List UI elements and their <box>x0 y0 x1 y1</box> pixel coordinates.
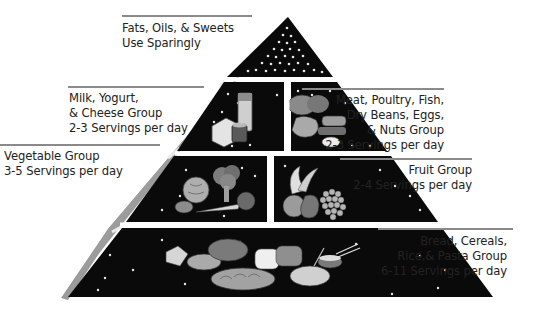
label-fruit: Fruit Group 2-4 Servings per day <box>353 163 472 193</box>
rule-fruit <box>340 158 472 160</box>
rule-milk <box>68 86 204 88</box>
label-meat: Meat, Poultry, Fish, Dry Beans, Eggs, & … <box>325 93 444 153</box>
rule-vegetable <box>0 144 160 146</box>
tier-fats <box>227 17 333 77</box>
label-milk: Milk, Yogurt, & Cheese Group 2-3 Serving… <box>69 91 188 136</box>
label-fats-line-1: Fats, Oils, & Sweets <box>122 21 234 36</box>
label-bread: Bread, Cereals, Rice,& Pasta Group 6-11 … <box>381 234 507 279</box>
label-meat-line-4: 2-3 Servings per day <box>325 138 444 153</box>
label-fruit-line-2: 2-4 Servings per day <box>353 178 472 193</box>
label-meat-line-1: Meat, Poultry, Fish, <box>325 93 444 108</box>
label-bread-line-3: 6-11 Servings per day <box>381 264 507 279</box>
rule-meat <box>302 88 444 90</box>
label-bread-line-2: Rice,& Pasta Group <box>381 249 507 264</box>
rule-fats <box>122 15 252 17</box>
label-bread-line-1: Bread, Cereals, <box>381 234 507 249</box>
label-meat-line-3: & Nuts Group <box>325 123 444 138</box>
label-fats-line-2: Use Sparingly <box>122 36 234 51</box>
label-meat-line-2: Dry Beans, Eggs, <box>325 108 444 123</box>
label-milk-line-1: Milk, Yogurt, <box>69 91 188 106</box>
label-vegetable-line-2: 3-5 Servings per day <box>4 164 123 179</box>
label-fats: Fats, Oils, & Sweets Use Sparingly <box>122 21 234 51</box>
label-milk-line-3: 2-3 Servings per day <box>69 121 188 136</box>
label-milk-line-2: & Cheese Group <box>69 106 188 121</box>
label-vegetable: Vegetable Group 3-5 Servings per day <box>4 149 123 179</box>
rule-bread <box>378 228 513 230</box>
label-fruit-line-1: Fruit Group <box>353 163 472 178</box>
label-vegetable-line-1: Vegetable Group <box>4 149 123 164</box>
